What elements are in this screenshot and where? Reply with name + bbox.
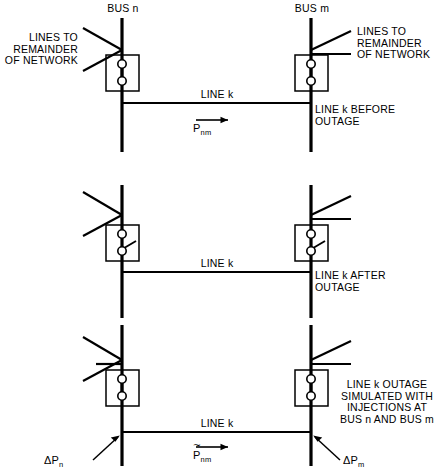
breaker-contact-m-bottom-panel3 [307,392,315,400]
network-stub-left-lower-panel1 [83,50,122,71]
network-label-left: LINES TO REMAINDER OF NETWORK [2,32,78,67]
network-stub-right-upper-panel3 [311,341,351,360]
caption-panel1: LINE k BEFORE OUTAGE [315,104,441,127]
flow-label-panel1: Pnm [193,123,237,136]
injection-subscript-m: m [358,460,364,469]
caption-panel3: LINE k OUTAGE SIMULATED WITH INJECTIONS … [333,379,441,425]
breaker-contact-m-top-panel1 [307,60,315,68]
injection-arrow-head-n [111,435,120,441]
network-stub-left-upper-panel2 [83,192,122,215]
network-stub-left-upper-panel1 [83,28,122,50]
line-k-label-panel1: LINE k [172,89,262,101]
breaker-contact-n-top-panel2 [118,230,126,238]
panel-after-outage-graphics [83,185,351,318]
flow-symbol-panel1: P [193,122,201,134]
bus-m-label: BUS m [281,3,343,15]
breaker-contact-m-top-panel2 [307,230,315,238]
line-outage-figure: BUS n BUS m LINES TO REMAINDER OF NETWOR… [0,0,441,474]
breaker-open-blade-n-panel2 [125,241,136,248]
injection-arrow-head-m [313,435,322,441]
injection-symbol-n: ΔP [44,454,59,466]
breaker-contact-n-top-panel1 [118,60,126,68]
injection-label-n: ΔPn [44,455,92,468]
panel-simulated-outage-graphics [83,325,351,466]
network-stub-right-upper-panel1 [311,31,351,50]
bus-n-label: BUS n [92,3,154,15]
injection-label-m: ΔPm [343,455,391,468]
flow-symbol-panel3: P [193,449,201,461]
flow-subscript-panel3: nm [201,455,212,464]
line-k-label-panel2: LINE k [172,258,262,270]
breaker-open-blade-m-panel2 [314,241,325,248]
breaker-contact-n-top-panel3 [118,375,126,383]
breaker-contact-m-top-panel3 [307,375,315,383]
network-label-right: LINES TO REMAINDER OF NETWORK [357,26,441,61]
injection-subscript-n: n [59,460,63,469]
network-stub-right-upper-panel2 [311,196,351,215]
tilde-accent-panel3: ~ [193,443,201,449]
flow-label-panel3: ~Pnm [193,450,239,463]
breaker-contact-m-bottom-panel1 [307,77,315,85]
network-stub-left-upper-panel3 [83,337,122,360]
breaker-contact-n-bottom-panel3 [118,392,126,400]
line-k-label-panel3: LINE k [172,418,262,430]
flow-subscript-panel1: nm [201,128,212,137]
breaker-contact-n-bottom-panel1 [118,77,126,85]
caption-panel2: LINE k AFTER OUTAGE [315,270,441,293]
injection-symbol-m: ΔP [343,454,358,466]
flow-symbol-tilde-panel3: ~P [193,450,201,462]
